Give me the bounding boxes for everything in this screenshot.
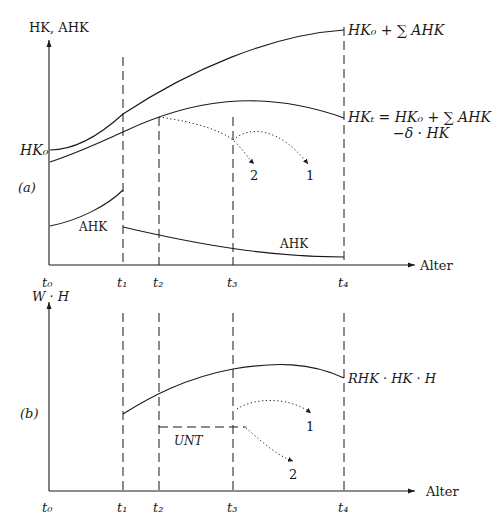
path-label-1-a: 1 (306, 169, 314, 182)
x-axis-label-b: Alter (426, 485, 459, 498)
tick-t0-a: t₀ (42, 276, 52, 289)
path-label-1-b: 1 (306, 420, 314, 433)
tick-t4-b: t₄ (338, 501, 348, 514)
ahk-label-left: AHK (79, 221, 107, 233)
tick-t4-a: t₄ (338, 276, 348, 289)
time-gridlines-a (123, 27, 344, 265)
tick-t1-b: t₁ (117, 501, 127, 514)
panel-b-tag: (b) (20, 407, 38, 420)
tick-t3-a: t₃ (227, 276, 237, 289)
y-axis-label-a: HK, AHK (29, 21, 89, 34)
path-arrow-2-a (159, 117, 254, 164)
ahk-label-right: AHK (280, 238, 308, 250)
hk0-tick-label: HK₀ (20, 143, 48, 157)
time-gridlines-b (123, 313, 344, 491)
unt-label: UNT (174, 435, 203, 447)
upper-curve-label: HK₀ + ∑ AHK (348, 23, 444, 37)
panel-b (49, 302, 415, 491)
panel-a-tag: (a) (18, 181, 36, 194)
tick-t0-b: t₀ (42, 501, 52, 514)
path-arrow-2-b (246, 428, 293, 461)
path-arrow-1-b (237, 400, 311, 413)
tick-t1-a: t₁ (117, 276, 127, 289)
curve-hk0-plus-sum-ahk (50, 30, 344, 150)
tick-t3-b: t₃ (227, 501, 237, 514)
x-axis-label-a: Alter (420, 259, 453, 272)
tick-t2-b: t₂ (153, 501, 163, 514)
rhk-curve-label: RHK · HK · H (348, 372, 436, 385)
tick-t2-a: t₂ (153, 276, 163, 289)
path-arrow-1-a (233, 131, 308, 164)
hkt-curve-label-line1: HKₜ = HK₀ + ∑ AHK (348, 110, 491, 124)
path-label-2-b: 2 (289, 468, 297, 481)
hkt-curve-label-line2: −δ · HK (393, 126, 449, 140)
curve-hkt (50, 101, 344, 162)
y-axis-label-b: W · H (32, 290, 69, 303)
path-label-2-a: 2 (250, 169, 258, 182)
